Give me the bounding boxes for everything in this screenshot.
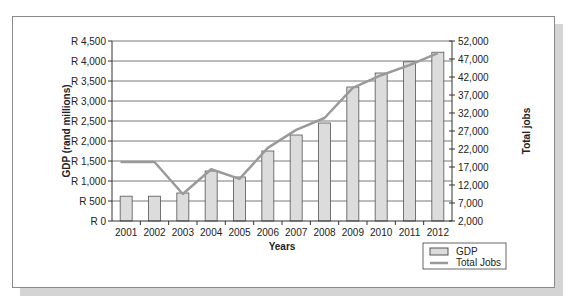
right-tick-label: 2,000	[458, 216, 483, 227]
x-tick-label: 2001	[115, 227, 138, 238]
right-tick-label: 27,000	[458, 126, 489, 137]
right-tick-label: 22,000	[458, 144, 489, 155]
y-axis-title: GDP (rand millions)	[61, 84, 72, 177]
gdp-bar	[177, 193, 189, 221]
left-tick-label: R 4,000	[71, 56, 106, 67]
x-tick-label: 2007	[285, 227, 308, 238]
x-tick-label: 2009	[342, 227, 365, 238]
left-tick-label: R 1,000	[71, 176, 106, 187]
x-tick-label: 2012	[427, 227, 450, 238]
gdp-bar	[319, 123, 331, 221]
left-tick-label: R 3,500	[71, 76, 106, 87]
legend-gdp-label: GDP	[456, 246, 478, 257]
right-tick-label: 32,000	[458, 108, 489, 119]
gdp-bar	[262, 151, 274, 221]
gdp-bar	[290, 135, 302, 221]
x-tick-label: 2005	[228, 227, 251, 238]
right-tick-label: 7,000	[458, 198, 483, 209]
left-tick-label: R 4,500	[71, 36, 106, 47]
left-tick-label: R 3,000	[71, 96, 106, 107]
right-tick-label: 47,000	[458, 54, 489, 65]
gdp-bar	[347, 87, 359, 221]
x-tick-label: 2003	[172, 227, 195, 238]
right-tick-label: 12,000	[458, 180, 489, 191]
legend-jobs-label: Total Jobs	[456, 257, 501, 268]
right-tick-label: 17,000	[458, 162, 489, 173]
total-jobs-polyline	[121, 53, 438, 194]
legend: GDP Total Jobs	[423, 243, 506, 269]
right-tick-label: 52,000	[458, 36, 489, 47]
chart-canvas: R 0R 500R 1,000R 1,500R 2,000R 2,500R 3,…	[0, 0, 567, 304]
left-tick-label: R 500	[79, 196, 106, 207]
x-tick-label: 2008	[313, 227, 336, 238]
x-tick-label: 2011	[399, 227, 421, 238]
left-tick-label: R 2,000	[71, 136, 106, 147]
x-axis-ticks: 2001200220032004200520062007200820092010…	[115, 221, 449, 238]
gridlines	[112, 41, 452, 201]
right-tick-label: 42,000	[458, 72, 489, 83]
right-tick-label: 37,000	[458, 90, 489, 101]
left-axis-ticks: R 0R 500R 1,000R 1,500R 2,000R 2,500R 3,…	[71, 36, 112, 227]
legend-gdp-swatch	[430, 248, 448, 255]
total-jobs-line	[121, 53, 438, 194]
left-tick-label: R 0	[90, 216, 106, 227]
gdp-bar	[375, 73, 387, 221]
gdp-bar	[234, 177, 246, 221]
left-tick-label: R 2,500	[71, 116, 106, 127]
x-tick-label: 2004	[200, 227, 223, 238]
gdp-bars	[120, 52, 444, 221]
y2-axis-title: Total jobs	[521, 107, 532, 154]
right-axis-ticks: 2,0007,00012,00017,00022,00027,00032,000…	[449, 36, 489, 227]
x-axis-title: Years	[269, 241, 296, 252]
gdp-bar	[404, 62, 416, 221]
gdp-bar	[149, 196, 161, 221]
gdp-bar	[432, 52, 444, 221]
x-tick-label: 2006	[257, 227, 280, 238]
left-tick-label: R 1,500	[71, 156, 106, 167]
x-tick-label: 2002	[143, 227, 166, 238]
gdp-bar	[205, 171, 217, 221]
gdp-bar	[120, 196, 132, 221]
x-tick-label: 2010	[370, 227, 393, 238]
